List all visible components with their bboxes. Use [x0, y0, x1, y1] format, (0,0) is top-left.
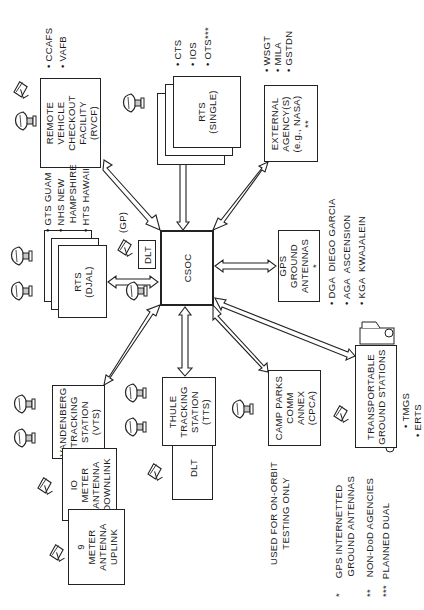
dlt-gp-note: (GP) — [117, 212, 129, 233]
rts-djal-label: RTS (DJAL) — [72, 266, 94, 297]
uplink-9m-label: 9 METER ANTENNA UPLINK — [75, 523, 119, 571]
cpca-label: CAMP PARKS COMM ANNEX (CPCA) — [273, 376, 317, 440]
rts-single-node: RTS (SINGLE) — [173, 76, 241, 148]
external-agency-label: EXTERNAL AGENCY(S) (e.g., NASA) ** — [269, 95, 313, 152]
rvcf-node: REMOTE VEHICLE CHECKOUT FACILITY (RVCF) — [40, 78, 101, 168]
rvcf-site-1: • CCAFS — [43, 28, 55, 68]
gps-ground-node: GPS GROUND ANTENNAS * — [278, 230, 320, 302]
rts-single-label: RTS (SINGLE) — [196, 90, 218, 134]
rts-single-site-2: • IOS — [187, 42, 199, 66]
vts-label: VANDENBERG TRACKING STATION (VTS) — [57, 388, 101, 457]
transportable-label: TRANSPORTABLE GROUND STATIONS — [365, 349, 387, 444]
rts-single-site-3: • OTS*** — [202, 27, 214, 66]
tts-node: THULE TRACKING STATION (TTS) — [162, 377, 216, 446]
dlt-gp-node: DLT — [138, 240, 156, 269]
external-site-3: • GSTDN — [283, 31, 295, 72]
rts-djal-site-3: • HTS HAWAII — [80, 168, 92, 232]
legend-item-2: ** NON-DoD AGENCIES — [364, 478, 376, 597]
gps-ground-label: GPS GROUND ANTENNAS * — [277, 239, 321, 293]
cpca-node: CAMP PARKS COMM ANNEX (CPCA) — [268, 370, 321, 446]
csoc-label: CSOC — [182, 254, 193, 283]
transportable-node: TRANSPORTABLE GROUND STATIONS — [355, 345, 397, 448]
gps-site-2: • AGA ASCENSION — [341, 215, 353, 306]
rts-single-site-1: • CTS — [172, 40, 184, 66]
rts-djal-site-2: • NHS NEW HAMPSHIRE — [55, 164, 79, 232]
dlt-gp-label: DLT — [142, 245, 153, 263]
cpca-note: USED FOR ON-ORBIT TESTING ONLY — [268, 462, 292, 565]
dlt-tts-label: DLT — [187, 459, 198, 477]
rvcf-site-2: • VAFB — [57, 36, 69, 68]
gps-site-1: • DGA DIEGO GARCIA — [326, 198, 338, 305]
transportable-site-2: • ERTS — [412, 404, 424, 437]
csoc-node: CSOC — [160, 230, 214, 306]
rvcf-label: REMOTE VEHICLE CHECKOUT FACILITY (RVCF) — [43, 95, 98, 151]
network-diagram: CSOC REMOTE VEHICLE CHECKOUT FACILITY (R… — [0, 0, 424, 610]
external-agency-node: EXTERNAL AGENCY(S) (e.g., NASA) ** — [264, 85, 318, 162]
downlink-10m-label: IO METER ANTENNA DOWNLINK — [68, 458, 112, 512]
gps-site-3: • KGA KWAJALEIN — [356, 216, 368, 305]
transportable-site-1: • TMGS — [400, 393, 412, 428]
rts-djal-node: RTS (DJAL) — [58, 245, 107, 318]
legend-item-1: * GPS INTERNETTED GROUND ANTENNAS — [333, 476, 357, 597]
legend-item-3: *** PLANNED DUAL — [380, 503, 392, 597]
uplink-9m-node: 9 METER ANTENNA UPLINK — [68, 509, 125, 585]
tts-label: THULE TRACKING STATION (TTS) — [167, 386, 211, 438]
rts-djal-site-1: • GTS GUAM — [42, 172, 54, 232]
